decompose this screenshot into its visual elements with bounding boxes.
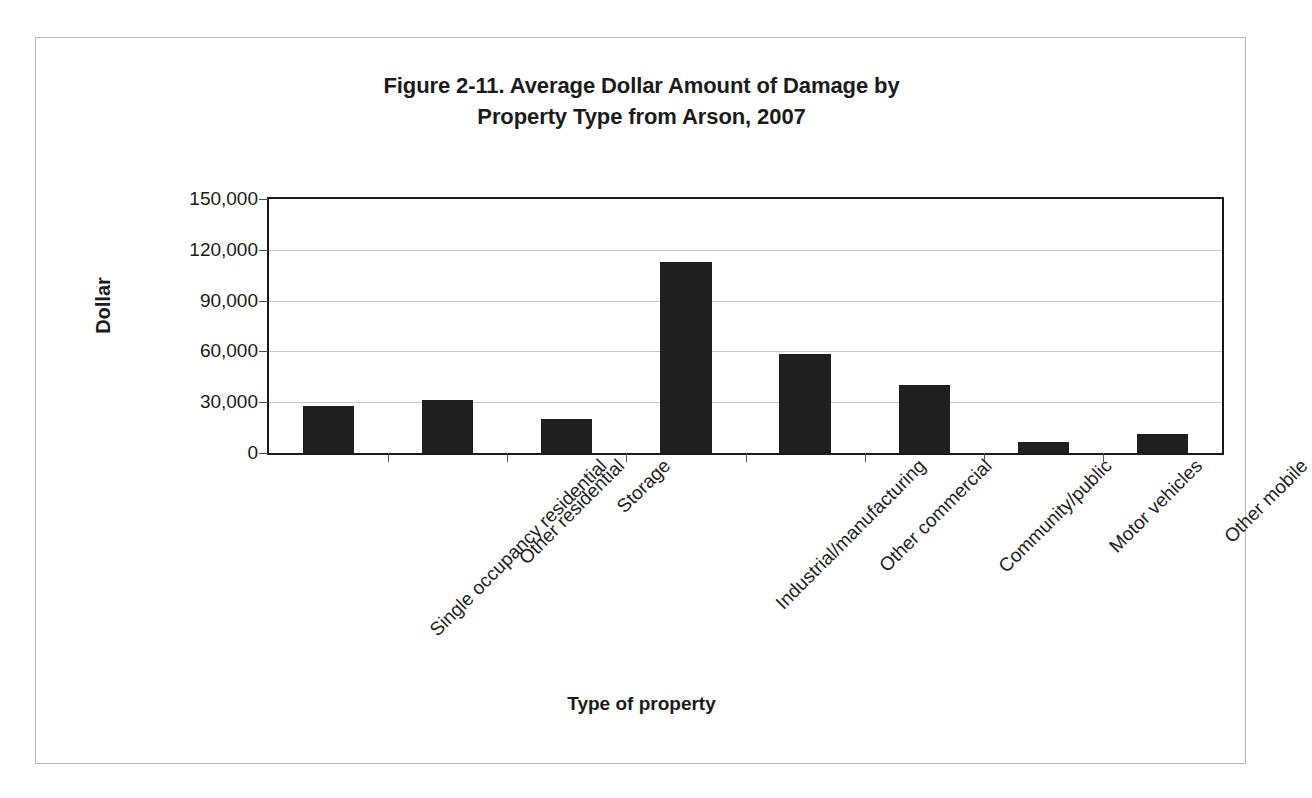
bar — [1137, 434, 1188, 453]
y-axis-tick-label: 120,000 — [189, 239, 258, 261]
bar — [660, 262, 711, 453]
gridline — [269, 301, 1222, 302]
x-axis-category-label: Other residential — [515, 455, 629, 569]
y-axis-tick-label: 60,000 — [200, 340, 258, 362]
chart-title-line-2: Property Type from Arson, 2007 — [36, 101, 1247, 132]
x-axis-category-label-wrapper: Other residential — [515, 455, 629, 569]
plot-area: 150,000120,00090,00060,00030,0000 — [267, 197, 1224, 455]
x-axis-category-label-wrapper: Motor vehicles — [1105, 455, 1207, 557]
y-axis-title: Dollar — [92, 236, 115, 376]
x-axis-category-label: Other commercial — [875, 455, 997, 577]
x-axis-category-label-wrapper: Single occupancy residential — [425, 455, 611, 641]
y-axis-tick-mark — [259, 351, 268, 352]
x-axis-category-labels: Single occupancy residentialOther reside… — [267, 455, 1220, 685]
y-axis-tick-mark — [259, 250, 268, 251]
x-axis-title: Type of property — [36, 693, 1247, 715]
bar — [422, 400, 473, 453]
x-axis-category-label-wrapper: Community/public — [994, 455, 1116, 577]
y-axis-tick-label: 90,000 — [200, 290, 258, 312]
gridline — [269, 351, 1222, 352]
bar — [303, 406, 354, 453]
bar — [779, 354, 830, 453]
y-axis-tick-mark — [259, 199, 268, 200]
y-axis-tick-mark — [259, 453, 268, 454]
figure-frame: Figure 2-11. Average Dollar Amount of Da… — [35, 37, 1246, 764]
y-axis-tick-label: 0 — [247, 442, 258, 464]
gridline — [269, 250, 1222, 251]
bar — [1018, 442, 1069, 453]
bar — [541, 419, 592, 453]
y-axis-tick-label: 150,000 — [189, 188, 258, 210]
chart-title: Figure 2-11. Average Dollar Amount of Da… — [36, 70, 1247, 132]
gridline — [269, 402, 1222, 403]
x-axis-category-label: Motor vehicles — [1105, 455, 1207, 557]
x-axis-category-label: Community/public — [994, 455, 1116, 577]
x-axis-category-label: Single occupancy residential — [425, 455, 611, 641]
x-axis-category-label-wrapper: Other mobile — [1220, 455, 1312, 547]
y-axis-tick-mark — [259, 301, 268, 302]
x-axis-category-label-wrapper: Other commercial — [875, 455, 997, 577]
y-axis-tick-mark — [259, 402, 268, 403]
y-axis-tick-label: 30,000 — [200, 391, 258, 413]
chart-title-line-1: Figure 2-11. Average Dollar Amount of Da… — [36, 70, 1247, 101]
bar — [899, 385, 950, 453]
x-axis-category-label: Other mobile — [1220, 455, 1312, 547]
